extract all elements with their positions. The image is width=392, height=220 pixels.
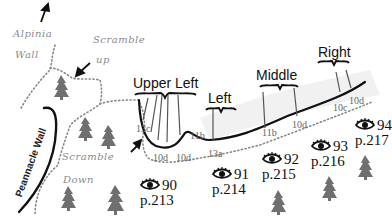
- route-ref-94[interactable]: 94 p.217: [355, 118, 392, 148]
- eye-icon: [355, 118, 375, 130]
- tree-icon: [78, 117, 93, 141]
- grade-label: 10d: [153, 153, 168, 163]
- arrow-up-icon: [42, 4, 49, 11]
- tree-icon: [322, 176, 337, 201]
- grade-label: 10c: [333, 103, 347, 113]
- grade-label: 10d: [176, 153, 191, 163]
- tree-icon: [358, 155, 373, 180]
- label-scramble-up-1: Scramble: [93, 35, 145, 45]
- grade-label: 10d: [349, 96, 364, 106]
- label-scramble-up-2: up: [96, 55, 110, 65]
- tree-icon: [54, 75, 69, 100]
- eye-icon: [262, 152, 282, 164]
- tree-icon: [107, 185, 124, 215]
- brace-upper-left: [135, 93, 196, 98]
- area-right: Right: [318, 45, 351, 59]
- climbing-topo-map: Alpinia Scramble up Scramble Down Peanna…: [0, 0, 392, 220]
- label-scramble-down-1: Scramble: [62, 152, 114, 162]
- brace-right: [318, 61, 349, 65]
- label-scramble-down-2: Down: [63, 175, 94, 185]
- grade-label: 13a: [208, 149, 222, 159]
- label-alpinia-wall-1: Alpinia: [13, 29, 52, 39]
- eye-icon: [311, 139, 331, 151]
- eye-icon: [140, 178, 160, 190]
- tree-icon: [61, 186, 76, 211]
- tree-icon: [101, 125, 116, 149]
- route-ref-93[interactable]: 93 p.216: [311, 139, 348, 169]
- route-ref-90[interactable]: 90 p.213: [140, 178, 177, 208]
- eye-icon: [212, 167, 232, 179]
- grade-label: 10d: [292, 120, 307, 130]
- grade-label: 11b: [262, 128, 277, 138]
- tree-icon: [271, 190, 286, 215]
- label-alpinia-wall-2: Wall: [15, 50, 39, 60]
- area-left: Left: [208, 91, 231, 105]
- grade-label: 13c: [136, 124, 150, 134]
- route-ref-92[interactable]: 92 p.215: [262, 152, 299, 182]
- area-upper-left: Upper Left: [133, 76, 198, 90]
- route-ref-91[interactable]: 91 p.214: [212, 167, 249, 197]
- area-middle: Middle: [256, 68, 297, 82]
- grade-label: 11b: [190, 131, 205, 141]
